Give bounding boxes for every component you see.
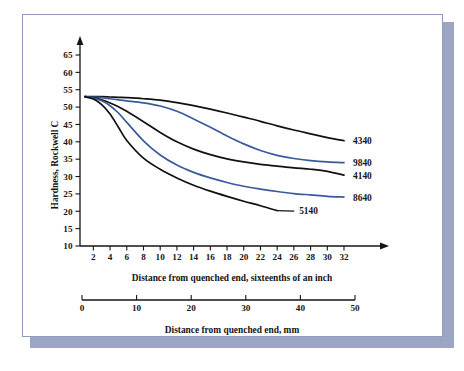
mm-axis-tick-label: 20 [187, 303, 197, 313]
hardenability-chart-svg: 101520253035404550556065 246810121416182… [0, 0, 464, 371]
x-axis-tick-label: 20 [239, 252, 249, 262]
curve-series-group [85, 97, 344, 211]
x-axis-title-mm: Distance from quenched end, mm [165, 325, 300, 335]
x-axis-title-sixteenths: Distance from quenched end, sixteenths o… [132, 273, 333, 283]
y-axis-tick-label: 55 [63, 85, 73, 95]
x-axis-tick-label: 16 [206, 252, 216, 262]
y-axis: 101520253035404550556065 [63, 36, 83, 251]
y-axis-tick-label: 25 [63, 189, 73, 199]
x-axis-tick-label: 12 [172, 252, 182, 262]
curve-label-4340: 4340 [353, 136, 372, 146]
curve-9840 [85, 97, 344, 163]
y-axis-tick-label: 35 [63, 154, 73, 164]
curve-label-8640: 8640 [353, 193, 372, 203]
mm-axis-tick-label: 10 [132, 303, 142, 313]
y-axis-tick-label: 30 [63, 172, 73, 182]
mm-axis-tick-label: 0 [80, 303, 85, 313]
x-axis-tick-label: 28 [306, 252, 316, 262]
curve-label-4140: 4140 [353, 171, 372, 181]
x-axis-tick-label: 10 [156, 252, 166, 262]
curve-leader-5140 [277, 211, 294, 212]
mm-axis-tick-label: 50 [350, 303, 360, 313]
curve-label-5140: 5140 [299, 206, 318, 216]
x-axis-arrow-icon [380, 243, 389, 250]
curve-labels-group: 43409840414086405140 [277, 136, 372, 216]
x-axis-tick-label: 6 [124, 252, 129, 262]
x-axis-tick-label: 4 [108, 252, 113, 262]
x-axis-tick-label: 22 [256, 252, 266, 262]
figure-page: 101520253035404550556065 246810121416182… [0, 0, 464, 371]
curve-label-9840: 9840 [353, 158, 372, 168]
x-axis-tick-label: 8 [141, 252, 146, 262]
x-axis-tick-label: 18 [222, 252, 232, 262]
y-axis-tick-label: 50 [63, 102, 73, 112]
chart-canvas: 101520253035404550556065 246810121416182… [0, 0, 464, 371]
curve-8640 [85, 97, 344, 197]
x-axis-tick-label: 32 [339, 252, 349, 262]
y-axis-tick-label: 20 [63, 207, 73, 217]
y-axis-tick-label: 10 [63, 241, 73, 251]
y-axis-tick-label: 45 [63, 120, 73, 130]
x-axis-tick-label: 14 [189, 252, 199, 262]
y-axis-tick-label: 40 [63, 137, 73, 147]
x-axis-tick-label: 26 [289, 252, 299, 262]
x-axis-millimeters: 01020304050 [80, 295, 360, 313]
y-axis-tick-label: 65 [63, 50, 73, 60]
y-axis-arrow-icon [77, 36, 84, 45]
y-axis-title: Hardness, Rockwell C [50, 120, 60, 209]
x-axis-tick-label: 30 [323, 252, 333, 262]
y-axis-tick-label: 60 [63, 68, 73, 78]
x-axis-sixteenths: 2468101214161820222426283032 [80, 243, 389, 262]
x-axis-tick-label: 24 [273, 252, 283, 262]
x-axis-tick-label: 2 [91, 252, 96, 262]
mm-axis-tick-label: 30 [241, 303, 251, 313]
y-axis-tick-label: 15 [63, 224, 73, 234]
mm-axis-tick-label: 40 [296, 303, 306, 313]
